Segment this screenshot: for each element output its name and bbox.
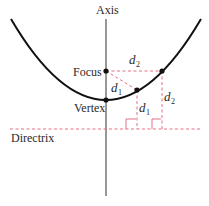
d2-vertical-sub: 2 xyxy=(171,97,175,106)
d1-vertical-label: d xyxy=(139,100,146,115)
axis-label: Axis xyxy=(96,3,119,17)
d1-slant-label: d xyxy=(111,80,118,95)
focus-point xyxy=(103,68,108,73)
d1-slant-sub: 1 xyxy=(118,88,122,97)
vertex-label: Vertex xyxy=(74,101,105,115)
point-p2 xyxy=(159,68,164,73)
parabola-diagram: Axis Focus Vertex Directrix d 2 d 1 d 1 … xyxy=(0,0,209,206)
d2-vertical-label: d xyxy=(164,89,171,104)
point-p1 xyxy=(134,87,139,92)
focus-label: Focus xyxy=(73,65,102,79)
directrix-label: Directrix xyxy=(11,131,54,145)
right-angle-marker-2 xyxy=(152,119,161,129)
d1-vertical-sub: 1 xyxy=(146,108,150,117)
d2-horizontal-sub: 2 xyxy=(136,60,140,69)
d2-horizontal-label: d xyxy=(129,52,136,67)
right-angle-marker-1 xyxy=(126,119,136,129)
